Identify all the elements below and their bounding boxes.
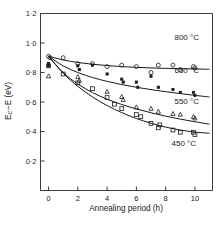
data-point (192, 91, 194, 93)
data-point (134, 113, 138, 117)
data-point (156, 63, 160, 67)
data-point (106, 73, 108, 75)
data-point (91, 87, 95, 91)
data-point (121, 97, 125, 101)
data-point (139, 115, 143, 119)
data-point (157, 86, 159, 88)
x-tick-label-10: 10 (191, 194, 199, 203)
data-point (105, 89, 109, 93)
data-point (91, 64, 93, 66)
data-point (137, 86, 139, 88)
data-point (78, 68, 80, 70)
y-axis-tick-labels: 0·20·40·60·81·01·2 (26, 9, 37, 166)
y-tick-label-0·6: 0·6 (26, 98, 37, 107)
chart-figure: 0246810 0·20·40·60·81·01·2 800 °C650 °C5… (0, 0, 221, 226)
data-point (46, 74, 50, 78)
data-point (135, 81, 137, 83)
y-tick-label-0·2: 0·2 (26, 157, 37, 166)
x-axis-tick-labels: 0246810 (46, 194, 199, 203)
y-axis-ticks (41, 14, 45, 162)
data-point (178, 130, 182, 134)
series-label-450-c: 450 °C (172, 139, 197, 148)
series-label-650-c: 650 °C (174, 66, 199, 75)
data-point (121, 78, 123, 80)
series-label-800-c: 800 °C (174, 33, 199, 42)
data-point (178, 112, 182, 116)
y-axis-title-rest: −E (eV) (4, 82, 13, 110)
series-label-550-c: 550 °C (174, 97, 199, 106)
data-point (149, 71, 153, 75)
data-point (77, 65, 79, 67)
x-tick-label-0: 0 (46, 194, 50, 203)
x-tick-label-6: 6 (134, 194, 138, 203)
data-point (156, 109, 160, 113)
x-tick-label-8: 8 (164, 194, 168, 203)
svg-text:EC−E (eV): EC−E (eV) (4, 82, 13, 120)
data-point (194, 94, 196, 96)
data-point (149, 106, 153, 110)
data-point (171, 112, 175, 116)
data-point (172, 88, 174, 90)
data-point (134, 65, 138, 69)
data-point (61, 56, 65, 60)
y-tick-label-1·0: 1·0 (26, 39, 37, 48)
y-tick-label-1·2: 1·2 (26, 9, 37, 18)
data-point (120, 107, 124, 111)
data-point (179, 91, 181, 93)
y-tick-label-0·8: 0·8 (26, 68, 37, 77)
fit-curve-650-c (49, 56, 210, 97)
x-axis-title: Annealing period (h) (89, 204, 163, 213)
x-axis-ticks (49, 187, 195, 191)
data-point (150, 75, 152, 77)
data-point (122, 81, 124, 83)
x-tick-label-2: 2 (76, 194, 80, 203)
y-tick-label-0·4: 0·4 (26, 127, 37, 136)
y-axis-title: EC−E (eV) (4, 82, 13, 120)
x-tick-label-4: 4 (105, 194, 109, 203)
data-point (134, 105, 138, 109)
chart-canvas: 0246810 0·20·40·60·81·01·2 800 °C650 °C5… (0, 0, 221, 226)
